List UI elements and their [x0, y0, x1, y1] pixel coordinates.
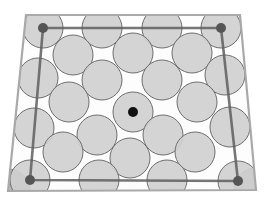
hex-packing-diagram	[0, 0, 273, 209]
packed-circle	[49, 82, 89, 122]
corner-node-icon	[233, 176, 243, 186]
corner-node-icon	[216, 23, 226, 33]
center-dot-icon	[128, 107, 138, 117]
packed-circle	[43, 132, 83, 172]
packed-circle	[172, 33, 212, 73]
packed-circle	[177, 82, 217, 122]
packed-circle	[82, 60, 122, 100]
corner-node-icon	[25, 175, 35, 185]
packed-circle	[142, 60, 182, 100]
diagram-canvas	[0, 0, 273, 209]
corner-node-icon	[38, 23, 48, 33]
